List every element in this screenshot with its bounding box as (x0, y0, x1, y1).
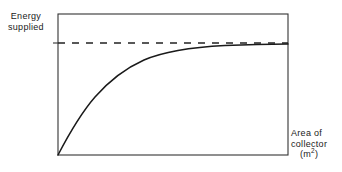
x-axis-label-line-1: Area of (291, 128, 322, 138)
y-axis-label-line-1: Energy (11, 11, 41, 21)
y-axis-label: Energy supplied (8, 11, 44, 32)
x-axis-units-close: ) (315, 149, 318, 159)
x-axis-label: Area of collector (m2) (291, 128, 327, 160)
x-axis-label-units: (m2) (291, 149, 327, 160)
x-axis-label-line-2: collector (291, 139, 327, 150)
x-axis-units-open: (m (300, 149, 311, 159)
y-axis-label-line-2: supplied (8, 22, 44, 33)
